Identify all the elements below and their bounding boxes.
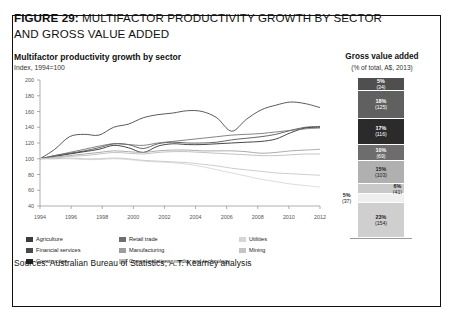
x-tick-label: 2012 bbox=[314, 214, 326, 220]
gva-segment: 5%(37) bbox=[358, 194, 404, 202]
x-tick-label: 2008 bbox=[252, 214, 264, 220]
y-axis-ticks: 406080100120140160180200 bbox=[25, 77, 40, 209]
figure-title: FIGURE 29: MULTIFACTOR PRODUCTIVITY GROW… bbox=[14, 10, 344, 41]
gva-subheading: (% of total, A$, 2013) bbox=[336, 63, 428, 72]
gva-segment-value: (69) bbox=[376, 153, 387, 159]
gva-heading: Gross value added bbox=[336, 52, 428, 62]
legend-item[interactable]: Manufacturing bbox=[119, 246, 249, 256]
legend-label: Agriculture bbox=[36, 235, 63, 244]
gva-stacked-bar-area: 5%(34)18%(125)17%(116)10%(69)15%(103)6%(… bbox=[336, 78, 428, 243]
x-tick-label: 2006 bbox=[221, 214, 233, 220]
x-tick-label: 2002 bbox=[158, 214, 170, 220]
gva-segment: 23%(154) bbox=[358, 203, 404, 238]
legend-swatch-icon bbox=[26, 237, 33, 242]
mfp-chart-panel: Multifactor productivity growth by secto… bbox=[14, 52, 326, 277]
y-tick-label: 120 bbox=[25, 140, 34, 146]
y-tick-label: 200 bbox=[25, 77, 34, 83]
x-tick-label: 2004 bbox=[190, 214, 202, 220]
x-axis-ticks: 1994199619982000200220042006200820102012 bbox=[34, 206, 326, 220]
gva-segment: 6%(41) bbox=[358, 184, 404, 194]
mfp-chart-subheading: Index, 1994=100 bbox=[14, 63, 326, 72]
legend-label: Retail trade bbox=[129, 235, 158, 244]
gva-segment-value: (116) bbox=[375, 131, 387, 137]
x-tick-label: 1998 bbox=[96, 214, 108, 220]
sources-note: Sources: Australian Bureau of Statistics… bbox=[14, 258, 252, 268]
gva-segment: 15%(103) bbox=[358, 161, 404, 184]
legend-item[interactable]: Financial services bbox=[26, 246, 118, 256]
legend-label: Mining bbox=[249, 246, 265, 255]
gva-segment: 17%(116) bbox=[358, 119, 404, 145]
gva-segment: 18%(125) bbox=[358, 91, 404, 119]
gva-bar-baseline bbox=[350, 238, 412, 239]
x-tick-label: 1996 bbox=[65, 214, 77, 220]
gva-segment-value: (154) bbox=[375, 220, 387, 226]
legend-label: Utilities bbox=[249, 235, 267, 244]
legend-item[interactable]: Agriculture bbox=[26, 235, 118, 245]
mfp-line-plot-svg: 406080100120140160180200 199419961998200… bbox=[14, 74, 326, 226]
figure-number: FIGURE 29: bbox=[14, 11, 79, 24]
x-tick-label: 1994 bbox=[34, 214, 46, 220]
legend-item[interactable]: Utilities bbox=[239, 235, 309, 245]
legend-column-3: UtilitiesMining bbox=[239, 235, 309, 257]
y-tick-label: 40 bbox=[28, 203, 34, 209]
gva-segment: 10%(69) bbox=[358, 145, 404, 161]
legend-label: Manufacturing bbox=[129, 246, 164, 255]
x-tick-label: 2010 bbox=[283, 214, 295, 220]
legend-swatch-icon bbox=[119, 237, 126, 242]
x-tick-label: 2000 bbox=[127, 214, 139, 220]
legend-swatch-icon bbox=[239, 237, 246, 242]
y-tick-label: 100 bbox=[25, 156, 34, 162]
gva-segment-percent: 10% bbox=[376, 147, 387, 153]
series-lines bbox=[40, 102, 320, 187]
mfp-chart-heading: Multifactor productivity growth by secto… bbox=[14, 52, 326, 62]
gva-segment-value: (103) bbox=[375, 172, 387, 178]
gva-segment-value: (125) bbox=[375, 104, 387, 110]
gva-segment-percent: 23% bbox=[375, 214, 387, 220]
legend-swatch-icon bbox=[239, 248, 246, 253]
mfp-line-plot: 406080100120140160180200 199419961998200… bbox=[14, 74, 326, 226]
gva-stacked-bar: 5%(34)18%(125)17%(116)10%(69)15%(103)6%(… bbox=[358, 78, 404, 238]
gva-panel: Gross value added (% of total, A$, 2013)… bbox=[336, 52, 428, 277]
legend-item[interactable]: Retail trade bbox=[119, 235, 249, 245]
gva-segment-value: (37) bbox=[342, 198, 351, 204]
y-tick-label: 60 bbox=[28, 187, 34, 193]
figure-title-line-2: AND GROSS VALUE ADDED bbox=[14, 26, 344, 42]
gva-segment: 5%(34) bbox=[358, 78, 404, 91]
legend-item[interactable]: Mining bbox=[239, 246, 309, 256]
legend-label: Financial services bbox=[36, 246, 80, 255]
legend-swatch-icon bbox=[119, 248, 126, 253]
series-line bbox=[40, 158, 320, 175]
series-line bbox=[40, 149, 320, 158]
legend-swatch-icon bbox=[26, 248, 33, 253]
figure-title-line-1: MULTIFACTOR PRODUCTIVITY GROWTH BY SECTO… bbox=[82, 11, 382, 24]
y-tick-label: 80 bbox=[28, 172, 34, 178]
y-tick-label: 140 bbox=[25, 124, 34, 130]
y-tick-label: 160 bbox=[25, 109, 34, 115]
gva-segment-value: (34) bbox=[376, 84, 385, 90]
y-tick-label: 180 bbox=[25, 93, 34, 99]
